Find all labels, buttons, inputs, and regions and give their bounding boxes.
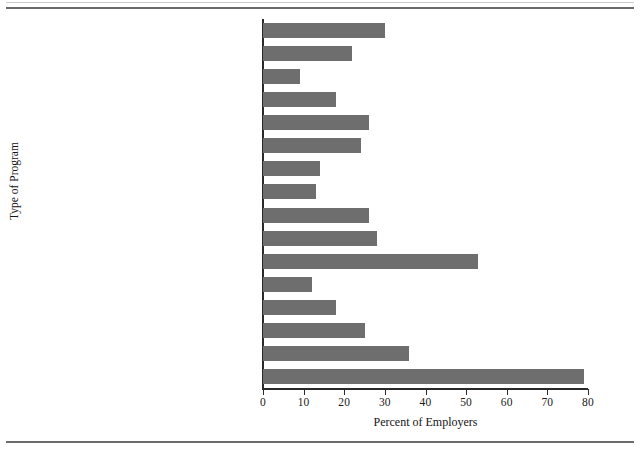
x-axis-tick-label: 0 <box>243 396 283 408</box>
bar <box>263 161 320 176</box>
chart-figure: 01020304050607080 Blood Pressure Screeni… <box>0 0 640 451</box>
plot-area <box>263 19 588 388</box>
bar <box>263 184 316 199</box>
bar-row <box>263 111 588 134</box>
x-axis-tick <box>507 389 508 395</box>
x-axis-tick <box>344 389 345 395</box>
bar <box>263 231 377 246</box>
page-rule-top <box>6 7 634 9</box>
bar <box>263 277 312 292</box>
bar-row <box>263 342 588 365</box>
bar <box>263 369 584 384</box>
bar-row <box>263 180 588 203</box>
bar <box>263 92 336 107</box>
bar-row <box>263 157 588 180</box>
bar <box>263 300 336 315</box>
x-axis-tick-label: 60 <box>487 396 527 408</box>
x-axis-tick-label: 80 <box>568 396 608 408</box>
bar <box>263 346 409 361</box>
bar-row <box>263 88 588 111</box>
x-axis-tick-label: 10 <box>284 396 324 408</box>
y-axis-title: Type of Program <box>8 111 20 251</box>
x-axis-tick <box>304 389 305 395</box>
x-axis-tick <box>426 389 427 395</box>
x-axis-tick <box>466 389 467 395</box>
x-axis-tick <box>263 389 264 395</box>
page-rule-ghost <box>6 2 634 3</box>
bar-row <box>263 204 588 227</box>
bar-row <box>263 65 588 88</box>
x-axis-title: Percent of Employers <box>263 415 588 430</box>
bar <box>263 23 385 38</box>
x-axis-tick-label: 50 <box>446 396 486 408</box>
bar-row <box>263 273 588 296</box>
bar <box>263 208 369 223</box>
bar-row <box>263 319 588 342</box>
bar <box>263 115 369 130</box>
bar-row <box>263 19 588 42</box>
x-axis-tick <box>385 389 386 395</box>
bar <box>263 138 361 153</box>
bar <box>263 323 365 338</box>
bar-row <box>263 42 588 65</box>
page-rule-bottom <box>6 441 634 443</box>
bar-row <box>263 250 588 273</box>
x-axis-tick-label: 40 <box>406 396 446 408</box>
bar <box>263 46 352 61</box>
x-axis-tick-label: 20 <box>324 396 364 408</box>
x-axis-tick-label: 30 <box>365 396 405 408</box>
bar-row <box>263 134 588 157</box>
bar-row <box>263 296 588 319</box>
x-axis-tick <box>588 389 589 395</box>
x-axis-tick-label: 70 <box>527 396 567 408</box>
bar <box>263 254 478 269</box>
bar-row <box>263 365 588 388</box>
x-axis-tick <box>547 389 548 395</box>
bar-row <box>263 227 588 250</box>
bar <box>263 69 300 84</box>
